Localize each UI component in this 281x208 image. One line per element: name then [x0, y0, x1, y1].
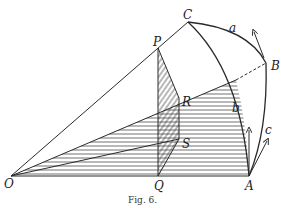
figure-caption: Fig. 6. [128, 195, 157, 205]
label-a-arc: a [229, 21, 236, 35]
label-r: R [181, 95, 191, 109]
label-c-arc: c [265, 123, 272, 137]
arrow-at-b [254, 32, 264, 58]
label-b-arc: b [232, 101, 240, 115]
label-b: B [270, 59, 280, 73]
label-c: C [183, 8, 192, 22]
label-s: S [182, 137, 190, 151]
label-p: P [152, 35, 162, 49]
shaded-sector [11, 80, 249, 176]
geometry-diagram: O Q A P C B R S a b c Fig. 6. [0, 0, 281, 208]
label-a: A [244, 179, 254, 193]
dashed-line-to-b [236, 63, 266, 80]
label-q: Q [154, 179, 164, 193]
label-o: O [4, 177, 14, 191]
arc-a [188, 22, 266, 63]
